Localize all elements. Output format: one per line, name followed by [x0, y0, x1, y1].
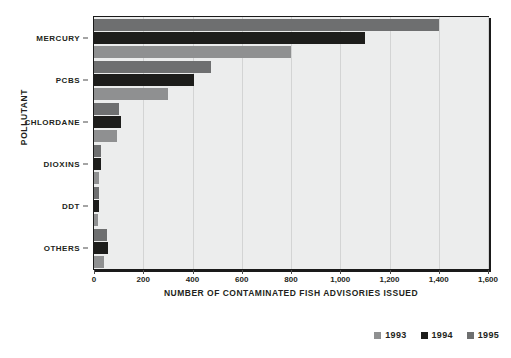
- y-axis-tick-label-chlordane: Chlordane: [24, 118, 80, 127]
- bar-others-1994: [94, 242, 108, 254]
- x-axis-tick-label-1600: 1,600: [478, 275, 498, 284]
- gridline: [439, 17, 440, 269]
- bar-mercury-1995: [94, 19, 439, 31]
- x-axis-tick: [390, 270, 391, 274]
- x-axis-tick: [488, 270, 489, 274]
- bar-pcbs-1994: [94, 74, 194, 86]
- x-axis-tick-label-800: 800: [284, 275, 297, 284]
- y-axis-tick-label-ddt: DDT: [62, 202, 80, 211]
- bar-others-1995: [94, 229, 107, 241]
- x-axis-title: Number of Contaminated Fish Advisories i…: [93, 288, 489, 298]
- bar-chlordane-1994: [94, 116, 121, 128]
- bar-dioxins-1994: [94, 158, 101, 170]
- y-axis-tick-label-dioxins: Dioxins: [44, 160, 80, 169]
- bar-mercury-1994: [94, 32, 365, 44]
- legend-label-1993: 1993: [385, 330, 406, 340]
- legend-label-1995: 1995: [478, 330, 499, 340]
- bar-chlordane-1995: [94, 103, 119, 115]
- legend-swatch-1995: [467, 332, 474, 339]
- x-axis-tick: [143, 270, 144, 274]
- x-axis-tick-label-0: 0: [92, 275, 96, 284]
- bar-dioxins-1993: [94, 172, 99, 184]
- x-axis-tick: [193, 270, 194, 274]
- y-axis-category-labels: MercuryPCBsChlordaneDioxinsDDTOthers: [0, 16, 88, 270]
- x-axis-tick-label-1400: 1,400: [429, 275, 449, 284]
- y-axis-tick: [83, 122, 88, 123]
- legend-item-1994: 1994: [421, 330, 453, 340]
- x-axis-tick-label-600: 600: [235, 275, 248, 284]
- y-axis-tick-label-mercury: Mercury: [36, 34, 80, 43]
- gridline: [390, 17, 391, 269]
- bar-pcbs-1993: [94, 88, 168, 100]
- x-axis-tick: [439, 270, 440, 274]
- bar-dioxins-1995: [94, 145, 101, 157]
- legend-item-1995: 1995: [467, 330, 499, 340]
- legend-swatch-1993: [374, 332, 381, 339]
- legend-label-1994: 1994: [432, 330, 453, 340]
- x-axis-tick: [291, 270, 292, 274]
- legend-swatch-1994: [421, 332, 428, 339]
- bar-ddt-1995: [94, 187, 99, 199]
- bar-ddt-1993: [94, 214, 98, 226]
- x-axis-tick-label-400: 400: [186, 275, 199, 284]
- y-axis-tick: [83, 80, 88, 81]
- y-axis-tick: [83, 164, 88, 165]
- x-axis-tick-label-1200: 1,200: [379, 275, 399, 284]
- y-axis-tick-label-pcbs: PCBs: [56, 76, 80, 85]
- gridline: [291, 17, 292, 269]
- gridline: [488, 17, 489, 269]
- x-axis-tick-label-200: 200: [137, 275, 150, 284]
- x-axis-tick: [94, 270, 95, 274]
- bar-mercury-1993: [94, 46, 291, 58]
- bar-chlordane-1993: [94, 130, 117, 142]
- y-axis-tick: [83, 248, 88, 249]
- chart-figure: Pollutant MercuryPCBsChlordaneDioxinsDDT…: [0, 0, 511, 358]
- x-axis-tick: [242, 270, 243, 274]
- bar-others-1993: [94, 256, 104, 268]
- x-axis-tick-label-1000: 1,000: [330, 275, 350, 284]
- chart-legend: 199319941995: [374, 330, 499, 340]
- bar-ddt-1994: [94, 200, 99, 212]
- bar-pcbs-1995: [94, 61, 211, 73]
- gridline: [340, 17, 341, 269]
- plot-area: [93, 16, 489, 270]
- y-axis-tick: [83, 38, 88, 39]
- y-axis-tick: [83, 206, 88, 207]
- y-axis-tick-label-others: Others: [44, 244, 80, 253]
- x-axis-tick: [340, 270, 341, 274]
- legend-item-1993: 1993: [374, 330, 406, 340]
